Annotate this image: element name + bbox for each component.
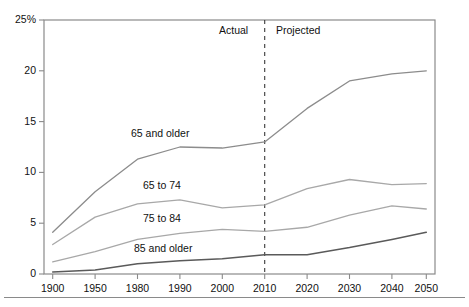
series-label-65-to-74: 65 to 74: [143, 180, 181, 191]
plot-frame: [44, 20, 435, 274]
footer-divider: [4, 297, 465, 298]
annotation-projected: Projected: [276, 25, 320, 36]
series-line-65-and-older: [53, 71, 427, 233]
chart-plot-area: [0, 0, 469, 307]
x-tick-label-2020: 2020: [285, 283, 329, 294]
series-label-85-and-older: 85 and older: [134, 243, 192, 254]
x-tick-label-2010: 2010: [243, 283, 287, 294]
y-tick-label-25: 25%: [0, 14, 36, 25]
y-tick-label-0: 0: [0, 268, 36, 279]
x-tick-label-1990: 1990: [158, 283, 202, 294]
series-line-75-to-84: [53, 206, 427, 262]
y-axis-ticks: [39, 20, 44, 274]
x-tick-label-2030: 2030: [328, 283, 372, 294]
x-tick-label-1900: 1900: [31, 283, 75, 294]
series-lines: [53, 71, 427, 272]
x-tick-label-2000: 2000: [200, 283, 244, 294]
series-label-65-and-older: 65 and older: [131, 128, 189, 139]
y-tick-label-5: 5: [0, 217, 36, 228]
series-line-85-and-older: [53, 232, 427, 272]
annotation-actual: Actual: [219, 25, 248, 36]
y-tick-label-15: 15: [0, 116, 36, 127]
series-label-75-to-84: 75 to 84: [143, 213, 181, 224]
y-tick-label-20: 20: [0, 65, 36, 76]
x-tick-label-2050: 2050: [404, 283, 448, 294]
series-line-65-to-74: [53, 180, 427, 245]
y-tick-label-10: 10: [0, 166, 36, 177]
x-tick-label-1950: 1950: [73, 283, 117, 294]
x-axis-ticks: [53, 274, 427, 279]
x-tick-label-1980: 1980: [116, 283, 160, 294]
chart-figure: 25% 20 15 10 5 0 1900 1950 1980 1990 200…: [0, 0, 469, 307]
